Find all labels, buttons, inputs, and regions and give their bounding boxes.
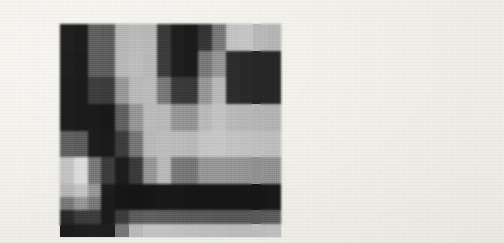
pixel-cell [157,210,171,223]
pixel-cell [115,224,129,237]
pixel-cell [143,184,157,197]
pixel-cell [115,51,129,64]
pixel-cell [129,24,143,37]
pixel-cell [226,117,240,130]
pixel-cell [171,197,185,210]
pixel-cell [157,51,171,64]
pixel-cell [212,157,226,170]
pixel-cell [198,210,212,223]
pixel-cell [129,51,143,64]
pixel-cell [101,37,115,50]
pixel-cell [212,77,226,90]
pixel-cell [212,64,226,77]
pixel-cell [101,131,115,144]
right-panel-blur-overlay [260,11,483,226]
pixel-cell [240,224,254,237]
pixel-cell [226,104,240,117]
pixel-cell [171,64,185,77]
pixel-cell [129,197,143,210]
pixel-cell [101,24,115,37]
pixel-cell [157,144,171,157]
pixel-cell [129,91,143,104]
pixel-cell [226,210,240,223]
pixel-cell [115,131,129,144]
pixel-cell [198,157,212,170]
left-panel-container [30,12,251,225]
pixel-cell [88,170,102,183]
pixel-cell [171,37,185,50]
pixel-cell [101,64,115,77]
pixel-cell [60,24,74,37]
pixel-cell [74,184,88,197]
pixel-cell [74,197,88,210]
pixel-cell [60,51,74,64]
pixel-cell [101,157,115,170]
pixel-cell [88,64,102,77]
pixel-cell [129,144,143,157]
pixel-cell [226,24,240,37]
pixel-cell [60,170,74,183]
pixel-cell [101,224,115,237]
pixel-cell [60,184,74,197]
pixel-cell [74,64,88,77]
pixel-cell [88,210,102,223]
pixel-cell [157,104,171,117]
pixel-cell [157,197,171,210]
pixel-cell [198,91,212,104]
pixel-cell [212,197,226,210]
pixel-cell [198,37,212,50]
pixel-cell [60,131,74,144]
pixel-cell [129,184,143,197]
pixel-cell [129,157,143,170]
pixel-cell [184,210,198,223]
pixel-cell [157,64,171,77]
pixel-cell [226,224,240,237]
pixel-cell [226,197,240,210]
pixel-cell [198,144,212,157]
pixel-cell [115,64,129,77]
pixel-cell [115,144,129,157]
pixel-cell [115,157,129,170]
pixel-cell [184,104,198,117]
pixel-cell [226,144,240,157]
pixel-cell [101,184,115,197]
pixel-cell [212,37,226,50]
pixel-cell [74,170,88,183]
pixel-cell [88,197,102,210]
pixel-cell [115,210,129,223]
pixel-cell [143,210,157,223]
pixel-cell [267,224,281,237]
pixel-cell [88,37,102,50]
pixel-cell [157,91,171,104]
pixel-cell [129,224,143,237]
pixel-cell [74,104,88,117]
pixel-cell [88,77,102,90]
pixel-cell [171,104,185,117]
pixel-cell [157,184,171,197]
pixel-cell [129,77,143,90]
pixel-cell [171,210,185,223]
pixel-cell [74,210,88,223]
pixel-cell [171,24,185,37]
pixel-cell [240,117,254,130]
pixel-cell [184,144,198,157]
pixel-cell [157,224,171,237]
pixel-cell [171,224,185,237]
pixel-cell [143,104,157,117]
pixel-cell [157,37,171,50]
pixel-cell [184,91,198,104]
pixel-cell [60,224,74,237]
pixel-cell [226,51,240,64]
pixel-cell [129,64,143,77]
pixel-cell [74,51,88,64]
pixel-cell [240,51,254,64]
pixel-cell [212,170,226,183]
pixel-cell [88,51,102,64]
pixel-cell [240,91,254,104]
pixel-cell [240,210,254,223]
pixel-cell [115,77,129,90]
pixel-cell [129,131,143,144]
pixel-cell [212,91,226,104]
pixel-cell [60,144,74,157]
pixel-cell [88,117,102,130]
